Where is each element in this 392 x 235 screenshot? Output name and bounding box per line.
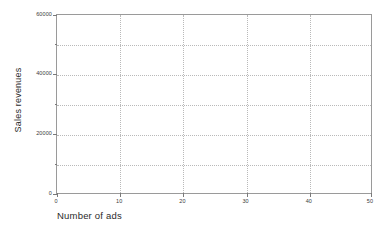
x-tick-30 [247, 193, 248, 197]
gridline-horizontal [57, 105, 371, 106]
plot-area [56, 14, 372, 194]
y-tick-10000 [55, 164, 57, 165]
x-axis-title: Number of ads [57, 210, 122, 221]
gridline-vertical [247, 15, 248, 193]
x-tick-20 [183, 193, 184, 197]
x-tick-10 [120, 193, 121, 197]
x-tick-label-50: 50 [360, 198, 380, 204]
y-tick-20000 [53, 134, 57, 135]
gridline-horizontal [57, 45, 371, 46]
chart-figure: Sales revenues 60000 40000 20000 [0, 0, 392, 235]
x-tick-label-0: 0 [46, 198, 66, 204]
y-axis-title-label: Sales revenues [13, 68, 23, 133]
x-tick-0 [57, 193, 58, 197]
y-tick-30000 [55, 104, 57, 105]
gridline-vertical [120, 15, 121, 193]
y-tick-label-60000: 60000 [24, 11, 52, 17]
gridline-horizontal [57, 135, 371, 136]
x-axis-title-label: Number of ads [57, 210, 122, 221]
y-tick-50000 [55, 44, 57, 45]
y-tick-40000 [53, 74, 57, 75]
x-tick-label-30: 30 [236, 198, 256, 204]
gridline-vertical [310, 15, 311, 193]
x-tick-50 [371, 193, 372, 197]
y-axis-title: Sales revenues [12, 50, 24, 150]
x-tick-label-20: 20 [172, 198, 192, 204]
x-tick-40 [310, 193, 311, 197]
y-tick-60000 [53, 15, 57, 16]
gridline-horizontal [57, 75, 371, 76]
gridline-vertical [183, 15, 184, 193]
y-tick-label-20000: 20000 [24, 130, 52, 136]
y-tick-label-40000: 40000 [24, 70, 52, 76]
gridline-horizontal [57, 165, 371, 166]
x-tick-label-10: 10 [109, 198, 129, 204]
x-tick-label-40: 40 [299, 198, 319, 204]
y-tick-label-0: 0 [24, 190, 52, 196]
